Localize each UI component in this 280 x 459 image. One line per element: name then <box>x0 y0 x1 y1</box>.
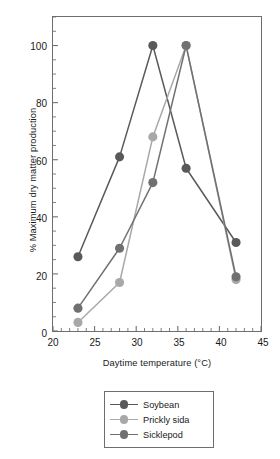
legend-dot <box>120 430 129 439</box>
y-tick-label: 60 <box>36 155 47 166</box>
x-tick-label: 30 <box>131 337 142 348</box>
legend-dot <box>120 415 129 424</box>
legend-marker-icon <box>110 414 138 426</box>
chart-legend: SoybeanPrickly sidaSicklepod <box>104 391 214 448</box>
legend-item-label: Soybean <box>143 400 179 410</box>
y-tick-label: 80 <box>36 98 47 109</box>
legend-item-label: Prickly sida <box>143 415 189 425</box>
legend-item[interactable]: Prickly sida <box>110 412 207 427</box>
y-tick-label: 100 <box>30 40 47 51</box>
x-tick-label: 35 <box>173 337 184 348</box>
legend-item[interactable]: Sicklepod <box>110 427 207 442</box>
x-tick-label: 45 <box>257 337 268 348</box>
legend-marker-icon <box>110 429 138 441</box>
legend-item-label: Sicklepod <box>143 430 183 440</box>
x-tick-label: 20 <box>47 337 58 348</box>
chart-figure: % Maximum dry matter production 02040608… <box>0 0 280 459</box>
x-tick-label: 40 <box>215 337 226 348</box>
y-tick-label: 0 <box>41 328 47 339</box>
x-axis-title: Daytime temperature (°C) <box>52 358 262 368</box>
y-tick-label: 40 <box>36 213 47 224</box>
legend-marker-icon <box>110 399 138 411</box>
plot-area: 020406080100202530354045 <box>52 16 262 332</box>
legend-item[interactable]: Soybean <box>110 397 207 412</box>
axis-tick-labels: 020406080100202530354045 <box>53 17 261 331</box>
x-tick-label: 25 <box>89 337 100 348</box>
y-tick-label: 20 <box>36 270 47 281</box>
legend-dot <box>120 400 129 409</box>
